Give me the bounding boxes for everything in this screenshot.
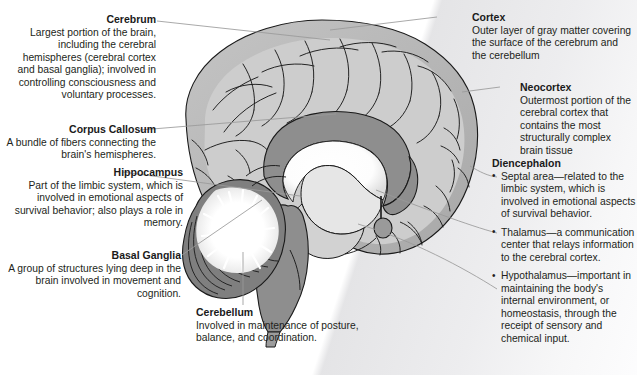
callout-cerebrum-heading: Cerebrum (4, 13, 156, 26)
callout-basal-ganglia: Basal Ganglia A group of structures lyin… (0, 249, 181, 300)
callout-cerebrum: Cerebrum Largest portion of the brain, i… (4, 13, 156, 102)
callout-cerebellum-body: Involved in maintenance of posture, bala… (196, 320, 386, 345)
callout-hippocampus-body: Part of the limbic system, which is invo… (0, 180, 183, 230)
callout-basal-ganglia-heading: Basal Ganglia (0, 249, 181, 262)
callout-diencephalon-heading: Diencephalon (492, 157, 637, 170)
callout-cortex-heading: Cortex (472, 11, 635, 24)
callout-diencephalon: Diencephalon Septal area—related to the … (492, 157, 637, 345)
callout-cortex-body: Outer layer of gray matter covering the … (472, 25, 635, 63)
callout-neocortex-heading: Neocortex (520, 81, 635, 94)
callout-cerebrum-body: Largest portion of the brain, including … (4, 27, 156, 102)
callout-cortex: Cortex Outer layer of gray matter coveri… (472, 11, 635, 62)
callout-corpus-callosum-body: A bundle of fibers connecting the brain'… (4, 137, 156, 162)
callout-corpus-callosum: Corpus Callosum A bundle of fibers conne… (4, 123, 156, 162)
brain-anatomy-figure: Cerebrum Largest portion of the brain, i… (0, 0, 637, 375)
callout-cerebellum-heading: Cerebellum (196, 306, 386, 319)
callout-cerebellum: Cerebellum Involved in maintenance of po… (196, 306, 386, 345)
diencephalon-list: Septal area—related to the limbic system… (492, 171, 637, 346)
callout-hippocampus-heading: Hippocampus (0, 166, 183, 179)
callout-basal-ganglia-body: A group of structures lying deep in the … (0, 263, 181, 301)
callout-hippocampus: Hippocampus Part of the limbic system, w… (0, 166, 183, 230)
callout-corpus-callosum-heading: Corpus Callosum (4, 123, 156, 136)
diencephalon-item-septal-area: Septal area—related to the limbic system… (492, 171, 637, 221)
diencephalon-item-thalamus: Thalamus—a communication center that rel… (492, 227, 637, 265)
callout-neocortex-body: Outermost portion of the cerebral cortex… (520, 95, 635, 158)
diencephalon-item-hypothalamus: Hypothalamus—important in maintaining th… (492, 270, 637, 345)
callout-neocortex: Neocortex Outermost portion of the cereb… (520, 81, 635, 157)
